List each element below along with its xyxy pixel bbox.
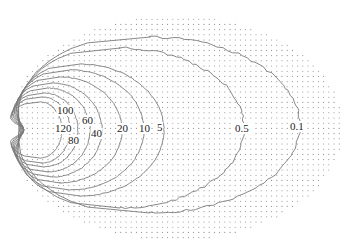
grid-dot <box>224 107 225 108</box>
grid-dot <box>276 159 277 160</box>
grid-dot <box>73 91 74 92</box>
grid-dot <box>105 81 106 82</box>
grid-dot <box>110 60 111 61</box>
grid-dot <box>141 45 142 46</box>
grid-dot <box>271 195 272 196</box>
grid-dot <box>183 143 184 144</box>
grid-dot <box>318 175 319 176</box>
grid-dot <box>63 206 64 207</box>
grid-dot <box>37 154 38 155</box>
grid-dot <box>94 149 95 150</box>
grid-dot <box>136 112 137 113</box>
grid-dot <box>203 107 204 108</box>
grid-dot <box>32 71 33 72</box>
grid-dot <box>151 123 152 124</box>
grid-dot <box>224 55 225 56</box>
grid-dot <box>271 128 272 129</box>
grid-dot <box>120 149 121 150</box>
grid-dot <box>209 65 210 66</box>
grid-dot <box>281 206 282 207</box>
grid-dot <box>141 76 142 77</box>
grid-dot <box>151 55 152 56</box>
grid-dot <box>193 164 194 165</box>
grid-dot <box>240 180 241 181</box>
grid-dot <box>27 112 28 113</box>
grid-dot <box>141 71 142 72</box>
grid-dot <box>27 159 28 160</box>
grid-dot <box>105 117 106 118</box>
grid-dot <box>188 164 189 165</box>
grid-dot <box>120 159 121 160</box>
grid-dot <box>287 45 288 46</box>
grid-dot <box>203 164 204 165</box>
grid-dot <box>63 154 64 155</box>
grid-dot <box>99 102 100 103</box>
grid-dot <box>42 164 43 165</box>
grid-dot <box>297 185 298 186</box>
grid-dot <box>172 227 173 228</box>
grid-dot <box>224 24 225 25</box>
grid-dot <box>276 50 277 51</box>
grid-dot <box>73 164 74 165</box>
grid-dot <box>172 112 173 113</box>
grid-dot <box>120 107 121 108</box>
grid-dot <box>21 107 22 108</box>
grid-dot <box>136 169 137 170</box>
grid-dot <box>115 149 116 150</box>
grid-dot <box>21 149 22 150</box>
grid-dot <box>162 19 163 20</box>
grid-dot <box>281 112 282 113</box>
grid-dot <box>235 65 236 66</box>
grid-dot <box>198 19 199 20</box>
grid-dot <box>245 50 246 51</box>
grid-dot <box>151 19 152 20</box>
grid-dot <box>58 91 59 92</box>
grid-dot <box>255 138 256 139</box>
grid-dot <box>292 65 293 66</box>
grid-dot <box>255 112 256 113</box>
grid-dot <box>68 102 69 103</box>
grid-dot <box>250 34 251 35</box>
grid-dot <box>115 206 116 207</box>
grid-dot <box>209 159 210 160</box>
grid-dot <box>193 206 194 207</box>
grid-dot <box>339 143 340 144</box>
grid-dot <box>266 39 267 40</box>
grid-dot <box>146 45 147 46</box>
grid-dot <box>167 169 168 170</box>
grid-dot <box>250 50 251 51</box>
grid-dot <box>63 81 64 82</box>
grid-dot <box>157 65 158 66</box>
contour-label: 10 <box>139 122 151 134</box>
grid-dot <box>271 154 272 155</box>
grid-dot <box>328 128 329 129</box>
grid-dot <box>151 102 152 103</box>
grid-dot <box>235 232 236 233</box>
grid-dot <box>94 29 95 30</box>
grid-dot <box>250 180 251 181</box>
grid-dot <box>198 97 199 98</box>
grid-dot <box>281 76 282 77</box>
grid-dot <box>125 50 126 51</box>
grid-dot <box>162 97 163 98</box>
grid-dot <box>125 154 126 155</box>
contour-label: 40 <box>91 127 103 139</box>
grid-dot <box>125 112 126 113</box>
grid-dot <box>209 19 210 20</box>
grid-dot <box>99 81 100 82</box>
grid-dot <box>318 107 319 108</box>
grid-dot <box>318 128 319 129</box>
grid-dot <box>245 97 246 98</box>
grid-dot <box>63 180 64 181</box>
grid-dot <box>250 216 251 217</box>
grid-dot <box>151 112 152 113</box>
grid-dot <box>255 164 256 165</box>
grid-dot <box>198 86 199 87</box>
grid-dot <box>157 107 158 108</box>
grid-dot <box>193 19 194 20</box>
grid-dot <box>27 149 28 150</box>
grid-dot <box>177 107 178 108</box>
grid-dot <box>318 86 319 87</box>
grid-dot <box>141 55 142 56</box>
grid-dot <box>141 81 142 82</box>
